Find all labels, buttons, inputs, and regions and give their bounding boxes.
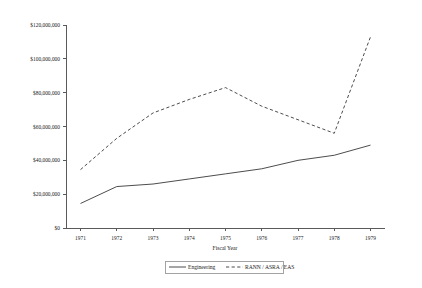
x-tick-label: 1979 — [365, 235, 376, 241]
axis-frame — [66, 25, 385, 228]
chart-container: $0$20,000,000$40,000,000$60,000,000$80,0… — [0, 0, 422, 288]
y-tick-label: $40,000,000 — [33, 157, 60, 163]
x-tick-label: 1971 — [75, 235, 86, 241]
series-line-engineering — [81, 145, 371, 203]
y-tick-label: $0 — [55, 225, 61, 231]
y-tick-label: $60,000,000 — [33, 124, 60, 130]
x-tick-label: 1977 — [293, 235, 304, 241]
x-axis-tick-labels: 197119721973197419751976197719781979 — [75, 235, 376, 241]
x-axis-title: Fiscal Year — [213, 245, 238, 251]
line-chart: $0$20,000,000$40,000,000$60,000,000$80,0… — [0, 0, 422, 288]
y-tick-label: $100,000,000 — [30, 56, 60, 62]
y-tick-label: $20,000,000 — [33, 191, 60, 197]
chart-legend: Engineering RANN / ASRA / EAS — [165, 261, 294, 273]
x-tick-label: 1972 — [111, 235, 122, 241]
y-tick-label: $80,000,000 — [33, 90, 60, 96]
y-axis-tick-labels: $0$20,000,000$40,000,000$60,000,000$80,0… — [30, 22, 60, 231]
x-tick-label: 1974 — [184, 235, 195, 241]
x-tick-label: 1973 — [148, 235, 159, 241]
data-series-group — [81, 37, 371, 204]
x-tick-label: 1975 — [220, 235, 231, 241]
legend-label-rann-asra-eas: RANN / ASRA / EAS — [245, 264, 294, 270]
y-tick-label: $120,000,000 — [30, 22, 60, 28]
x-tick-label: 1978 — [329, 235, 340, 241]
legend-label-engineering: Engineering — [188, 264, 216, 270]
series-line-rann-asra-eas — [81, 37, 371, 170]
x-tick-label: 1976 — [256, 235, 267, 241]
